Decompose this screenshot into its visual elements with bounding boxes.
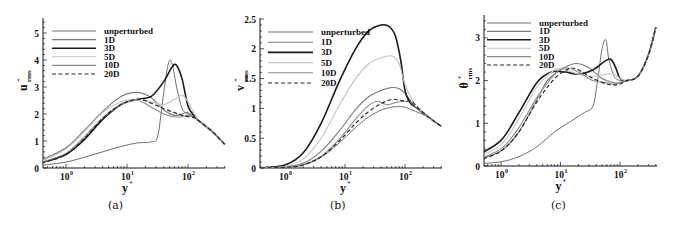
- x-tick-label: 10: [614, 170, 624, 180]
- series-1d: [42, 92, 225, 160]
- x-tick-exponent: 1: [565, 168, 568, 174]
- y-tick-label: 0: [475, 162, 480, 172]
- y-tick-label: 1: [34, 137, 39, 147]
- caption-b: (b): [330, 199, 346, 212]
- svg-text:+: +: [456, 76, 464, 80]
- y-tick-label: 3: [475, 33, 480, 43]
- legend: unperturbed1D3D5D10D20D: [487, 18, 588, 70]
- y-tick-label: 2: [475, 76, 480, 86]
- caption-a: (a): [108, 199, 123, 212]
- svg-text:θ: θ: [457, 82, 471, 88]
- legend-label: 20D: [539, 60, 555, 70]
- svg-text:u: u: [16, 84, 30, 91]
- panel-a: 100101102012345y+u+rmsunperturbed1D3D5D1…: [15, 18, 225, 195]
- y-tick-label: 1: [251, 104, 256, 114]
- series-3d: [261, 25, 441, 168]
- series-3d: [477, 27, 656, 155]
- svg-text:rms: rms: [242, 70, 250, 82]
- series-1d: [261, 87, 441, 168]
- legend-label: 1D: [321, 37, 333, 47]
- x-tick-exponent: 0: [70, 170, 73, 176]
- x-axis-label-sup: +: [347, 179, 351, 187]
- y-tick-label: 2.5: [244, 15, 256, 25]
- x-tick-exponent: 1: [349, 170, 352, 176]
- svg-text:v: v: [233, 85, 247, 91]
- x-tick-label: 10: [279, 172, 289, 182]
- series-3d: [42, 64, 225, 162]
- legend: unperturbed1D3D5D10D20D: [52, 26, 153, 79]
- legend-label: 3D: [321, 47, 333, 57]
- series-unperturbed: [42, 60, 225, 165]
- svg-text:+: +: [232, 78, 240, 82]
- series-1d: [477, 27, 656, 159]
- plot-area: [42, 60, 225, 165]
- x-axis-label-sup: +: [129, 179, 133, 187]
- y-tick-label: 1: [475, 119, 480, 129]
- x-tick-label: 10: [182, 172, 192, 182]
- x-tick-label: 10: [60, 172, 70, 182]
- series-20d: [261, 99, 441, 168]
- svg-text:rms: rms: [25, 70, 33, 82]
- x-axis-label-sup: +: [563, 177, 567, 185]
- y-tick-label: 5: [34, 29, 39, 39]
- legend-label: 10D: [321, 68, 337, 78]
- x-tick-label: 10: [495, 170, 505, 180]
- y-tick-label: 2: [34, 110, 39, 120]
- y-axis-label: θ+rms: [456, 68, 474, 89]
- figure: 100101102012345y+u+rmsunperturbed1D3D5D1…: [0, 0, 673, 225]
- y-tick-label: 2: [251, 44, 256, 54]
- plot-area: [261, 25, 441, 168]
- legend-label: 20D: [321, 78, 337, 88]
- series-20d: [42, 99, 225, 163]
- caption-c: (c): [551, 199, 566, 212]
- panel-b: 10010110200.511.522.5y+v+rmsunperturbed1…: [232, 15, 442, 196]
- y-tick-label: 4: [34, 56, 39, 66]
- svg-text:rms: rms: [466, 68, 474, 80]
- x-axis-label: y: [556, 179, 562, 193]
- legend-label: 5D: [321, 58, 333, 68]
- y-tick-label: 0: [34, 164, 39, 174]
- y-axis-label: v+rms: [232, 70, 250, 91]
- svg-text:+: +: [15, 78, 23, 82]
- series-10d: [477, 27, 656, 159]
- y-tick-label: 0.5: [244, 134, 256, 144]
- x-tick-exponent: 0: [505, 168, 508, 174]
- legend: unperturbed1D3D5D10D20D: [268, 27, 370, 88]
- y-axis-label: u+rms: [15, 70, 33, 91]
- legend-label: 20D: [104, 69, 120, 79]
- x-tick-label: 10: [399, 172, 409, 182]
- y-tick-label: 3: [34, 83, 39, 93]
- x-axis-label: y: [122, 181, 128, 195]
- x-tick-exponent: 2: [624, 168, 627, 174]
- x-tick-exponent: 2: [409, 170, 412, 176]
- panel-c: 1001011020123y+θ+rmsunperturbed1D3D5D10D…: [456, 15, 657, 193]
- x-tick-exponent: 1: [131, 170, 134, 176]
- legend-label: unperturbed: [321, 27, 370, 37]
- y-tick-label: 0: [251, 164, 256, 174]
- x-tick-exponent: 2: [192, 170, 195, 176]
- x-tick-exponent: 0: [289, 170, 292, 176]
- x-axis-label: y: [340, 181, 346, 195]
